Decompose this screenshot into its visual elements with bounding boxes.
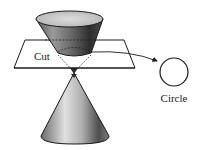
lower-cone bbox=[41, 73, 109, 144]
upper-cone-top-ellipse bbox=[36, 11, 103, 27]
result-circle bbox=[160, 58, 188, 86]
cone-apex bbox=[70, 68, 78, 78]
circle-label: Circle bbox=[161, 92, 188, 104]
conic-section-diagram: Cut Circle bbox=[0, 0, 202, 150]
cut-label: Cut bbox=[34, 50, 50, 62]
